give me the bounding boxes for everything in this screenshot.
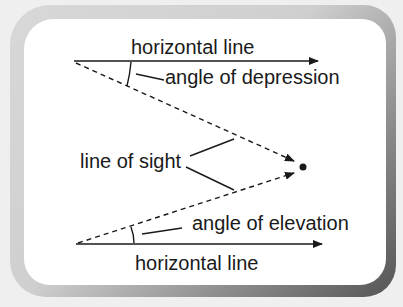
sight-pointer-upper: [190, 139, 234, 156]
elevation-pointer: [142, 228, 182, 234]
elevation-angle-arc: [131, 227, 134, 243]
label-line-of-sight: line of sight: [80, 150, 182, 172]
angle-diagram: horizontal line angle of depression line…: [0, 0, 403, 307]
target-point: [300, 164, 307, 171]
label-elevation: angle of elevation: [192, 212, 349, 234]
sight-pointer-lower: [186, 167, 234, 190]
depression-pointer: [136, 74, 164, 80]
label-top-horizontal: horizontal line: [131, 36, 254, 58]
label-bottom-horizontal: horizontal line: [135, 252, 258, 274]
label-depression: angle of depression: [165, 66, 340, 88]
depression-angle-arc: [127, 62, 131, 86]
